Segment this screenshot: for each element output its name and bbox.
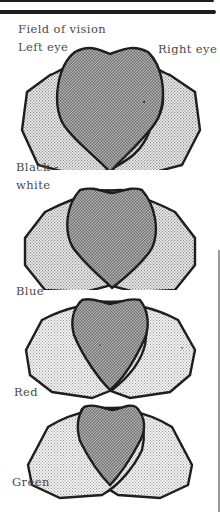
panel-label-black-white-1: Black - <box>16 160 59 174</box>
visual-field-diagram-black-white <box>0 40 220 170</box>
top-border-line-thick <box>0 10 216 14</box>
figure-title: Field of vision <box>18 22 106 36</box>
top-border-line <box>0 0 214 2</box>
visual-field-diagram-blue <box>0 180 220 290</box>
visual-field-diagram-red <box>0 290 220 400</box>
panel-label-green: Green <box>12 475 50 489</box>
